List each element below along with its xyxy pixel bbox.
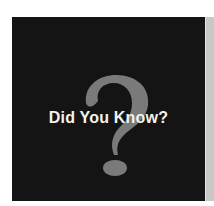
side-panel [205, 17, 214, 201]
card-title: Did You Know? [12, 109, 205, 127]
did-you-know-card: Did You Know? [12, 17, 205, 201]
